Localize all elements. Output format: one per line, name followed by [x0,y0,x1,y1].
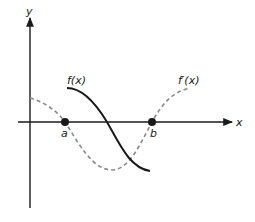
f-prime-label: f′(x) [178,74,199,87]
point-a [61,118,69,126]
diagram-canvas: y x f(x) f′(x) a b [0,0,255,222]
f-label: f(x) [67,74,86,87]
f-curve [67,88,150,171]
point-b [148,118,156,126]
point-a-label: a [61,127,68,140]
point-b-label: b [150,127,157,140]
y-axis-label: y [25,5,33,18]
x-axis-label: x [235,116,243,129]
